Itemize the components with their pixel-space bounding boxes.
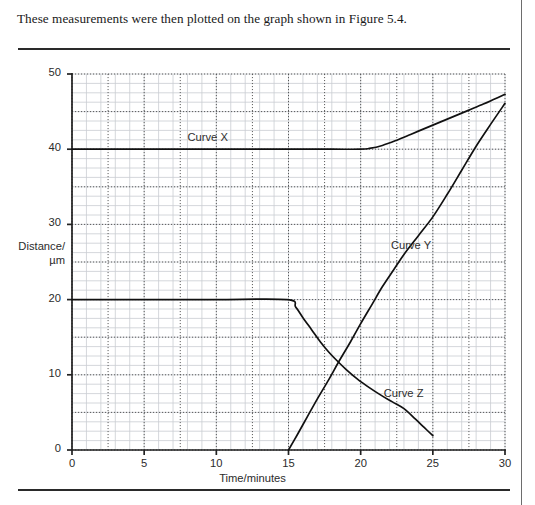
x-tick-label: 25: [418, 457, 448, 469]
x-tick-label: 0: [57, 457, 87, 469]
curve-annotation: Curve Y: [391, 239, 431, 251]
x-tick-label: 10: [201, 457, 231, 469]
axis-ticks: [67, 74, 505, 455]
figure-page: These measurements were then plotted on …: [0, 0, 535, 505]
x-tick-label: 30: [490, 457, 520, 469]
y-tick-label: 10: [35, 367, 61, 379]
curve-z: [72, 299, 433, 436]
y-tick-label: 40: [35, 141, 61, 153]
curve-annotation: Curve X: [187, 131, 227, 143]
x-tick-label: 15: [274, 457, 304, 469]
y-tick-label: 30: [35, 216, 61, 228]
y-axis-title-units: µm: [0, 253, 65, 267]
distance-vs-time-graph: [0, 0, 535, 505]
y-axis-title: Distance/ µm: [0, 239, 65, 267]
y-tick-label: 20: [35, 292, 61, 304]
y-tick-label: 0: [35, 442, 61, 454]
x-tick-label: 5: [129, 457, 159, 469]
y-axis-title-line1: Distance/: [18, 240, 65, 252]
x-tick-label: 20: [346, 457, 376, 469]
x-axis-title: Time/minutes: [0, 471, 505, 485]
curve-annotation: Curve Z: [384, 387, 424, 399]
y-tick-label: 50: [35, 66, 61, 78]
